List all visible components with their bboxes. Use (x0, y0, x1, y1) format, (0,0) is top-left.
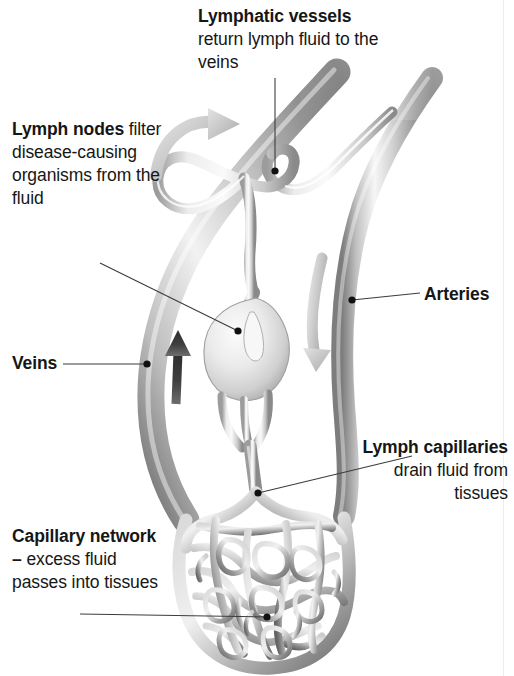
label-veins-heading: Veins (12, 353, 57, 373)
label-lymphatic-vessels-heading: Lymphatic vessels (198, 6, 351, 26)
label-lymph-capillaries-heading: Lymph capillaries (363, 437, 509, 457)
label-arteries-heading: Arteries (424, 284, 489, 304)
label-arteries: Arteries (424, 283, 510, 306)
lymphatic-system-figure: Lymphatic vessels return lymph fluid to … (0, 0, 514, 676)
label-lymph-capillaries: Lymph capillaries drain fluid from tissu… (356, 436, 508, 505)
label-veins: Veins (12, 352, 112, 375)
label-lymph-capillaries-body: drain fluid from tissues (394, 460, 508, 503)
label-lymph-nodes: Lymph nodes filter disease-causing organ… (12, 118, 172, 210)
leader-arteries (348, 293, 420, 304)
label-lymph-nodes-heading: Lymph nodes (12, 119, 124, 139)
capillary-network (179, 492, 349, 668)
arrow-arterial-flow (303, 258, 331, 372)
lymph-node (204, 292, 289, 492)
label-lymphatic-vessels-body: return lymph fluid to the veins (198, 29, 378, 72)
label-capillary-network: Capillary network – excess fluid passes … (12, 525, 162, 594)
right-edge-rule (503, 0, 504, 676)
label-capillary-network-body: excess fluid passes into tissues (12, 549, 158, 592)
label-lymphatic-vessels: Lymphatic vessels return lymph fluid to … (198, 5, 388, 74)
